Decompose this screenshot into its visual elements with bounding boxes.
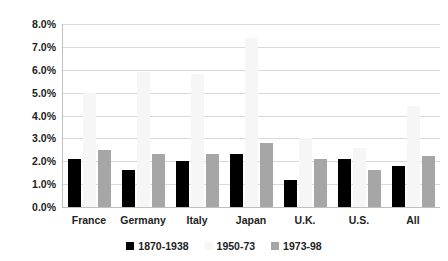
legend-swatch-icon: [271, 242, 279, 250]
bar-groups: [62, 24, 440, 207]
y-axis-tick-label: 4.0%: [4, 111, 56, 121]
bar: [176, 161, 189, 207]
x-axis-category-labels: FranceGermanyItalyJapanU.K.U.S.All: [62, 211, 440, 229]
bar: [260, 143, 273, 207]
bar: [392, 166, 405, 207]
bar: [338, 159, 351, 207]
y-axis-tick-label: 7.0%: [4, 42, 56, 52]
bar: [230, 154, 243, 207]
bar: [368, 170, 381, 207]
y-axis-tick-label: 8.0%: [4, 19, 56, 29]
bar-group: [224, 24, 278, 207]
legend-entry[interactable]: 1870-1938: [126, 241, 188, 252]
bar-group: [62, 24, 116, 207]
x-axis-category-label: Japan: [224, 211, 278, 229]
bar-group: [278, 24, 332, 207]
bar-group: [116, 24, 170, 207]
x-axis-category-label: Italy: [170, 211, 224, 229]
bar-chart: 0.0%1.0%2.0%3.0%4.0%5.0%6.0%7.0%8.0% Fra…: [0, 0, 448, 261]
bar: [191, 74, 204, 207]
y-axis-tick-labels: 0.0%1.0%2.0%3.0%4.0%5.0%6.0%7.0%8.0%: [0, 24, 56, 207]
legend-label: 1950-73: [217, 241, 256, 252]
legend-entry[interactable]: 1950-73: [205, 241, 256, 252]
bar: [122, 170, 135, 207]
bar: [407, 106, 420, 207]
bar: [245, 38, 258, 207]
bar: [83, 93, 96, 207]
bar: [152, 154, 165, 207]
x-axis-category-label: All: [386, 211, 440, 229]
gridline: [62, 207, 440, 208]
bar: [284, 180, 297, 207]
x-axis-category-label: Germany: [116, 211, 170, 229]
y-axis-tick-label: 2.0%: [4, 156, 56, 166]
y-axis-tick-label: 0.0%: [4, 202, 56, 212]
y-axis-tick-label: 6.0%: [4, 65, 56, 75]
bar: [68, 159, 81, 207]
x-axis-category-label: U.S.: [332, 211, 386, 229]
bar: [206, 154, 219, 207]
y-axis-tick-label: 3.0%: [4, 133, 56, 143]
legend-swatch-icon: [205, 242, 213, 250]
x-axis-category-label: France: [62, 211, 116, 229]
legend-label: 1973-98: [283, 241, 322, 252]
legend-label: 1870-1938: [138, 241, 188, 252]
bar: [299, 138, 312, 207]
bar: [137, 72, 150, 207]
x-axis-category-label: U.K.: [278, 211, 332, 229]
bar: [422, 156, 435, 207]
legend-entry[interactable]: 1973-98: [271, 241, 322, 252]
chart-legend: 1870-19381950-731973-98: [0, 238, 448, 254]
y-axis-tick-label: 5.0%: [4, 88, 56, 98]
y-axis-tick-label: 1.0%: [4, 179, 56, 189]
bar-group: [386, 24, 440, 207]
bar: [314, 159, 327, 207]
bar-group: [170, 24, 224, 207]
legend-swatch-icon: [126, 242, 134, 250]
bar: [353, 148, 366, 207]
bar: [98, 150, 111, 207]
bar-group: [332, 24, 386, 207]
